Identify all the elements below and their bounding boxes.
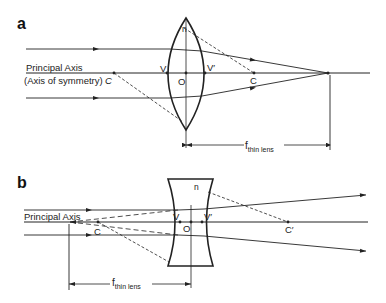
point-v-a: V	[160, 63, 167, 74]
radius-line-right-b	[208, 192, 288, 222]
ray-top-out-a	[202, 51, 328, 73]
panel-a: a Principal Axis (Axis of symmetry)	[17, 15, 370, 153]
panel-label-a: a	[17, 15, 26, 32]
principal-axis-label-a: Principal Axis	[26, 62, 83, 73]
arrow-icon	[93, 47, 99, 51]
point-o-a: O	[178, 76, 185, 87]
point-v-prime-a: V′	[207, 62, 215, 73]
lens-diagram: a Principal Axis (Axis of symmetry)	[0, 0, 386, 303]
axis-of-symmetry-label: (Axis of symmetry)	[24, 75, 103, 86]
ray-bottom-out-b	[204, 236, 366, 251]
ray-top-out-b	[204, 195, 366, 209]
point-c-right-a: C	[250, 75, 257, 86]
refractive-index-label-b: n	[194, 182, 199, 192]
panel-label-b: b	[17, 174, 27, 191]
point-c-right-b: C′	[285, 224, 294, 235]
point-c-left-a: C	[105, 75, 112, 86]
principal-axis-label-b: Principal Axis	[24, 211, 81, 222]
panel-b: b Principal Axis C V O	[17, 174, 368, 290]
focal-length-label-b: fthin lens	[112, 277, 141, 290]
point-o-b: O	[183, 223, 190, 234]
virtual-ray-bottom-b	[70, 222, 178, 235]
arrow-icon	[93, 96, 99, 100]
radius-line-left-b	[98, 222, 169, 262]
point-v-prime-b: V′	[204, 211, 212, 222]
refractive-index-label-a: n	[182, 24, 187, 34]
focal-length-label-a: fthin lens	[245, 140, 274, 153]
point-c-left-b: C	[94, 226, 101, 237]
arrow-icon	[360, 249, 366, 254]
point-v-b: V	[173, 211, 180, 222]
arrow-icon	[86, 233, 92, 237]
arrow-icon	[86, 208, 92, 212]
arrow-icon	[360, 193, 366, 198]
ray-bottom-out-a	[202, 73, 328, 96]
